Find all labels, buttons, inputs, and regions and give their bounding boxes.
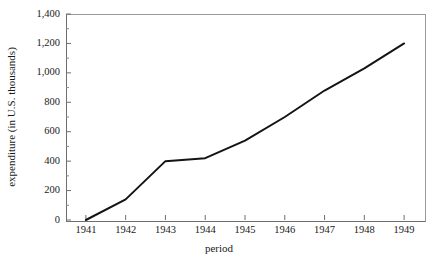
expenditure-line <box>86 43 404 220</box>
y-axis-title: expenditure (in U.S. thousands) <box>5 47 17 187</box>
y-axis-minor-ticks <box>66 29 69 206</box>
chart-canvas <box>0 0 438 259</box>
y-axis-title-wrap: expenditure (in U.S. thousands) <box>0 0 22 234</box>
x-axis-major-ticks <box>86 215 404 220</box>
x-axis-title: period <box>0 242 438 254</box>
chart-figure: 02004006008001,0001,2001,400 19411942194… <box>0 0 438 259</box>
